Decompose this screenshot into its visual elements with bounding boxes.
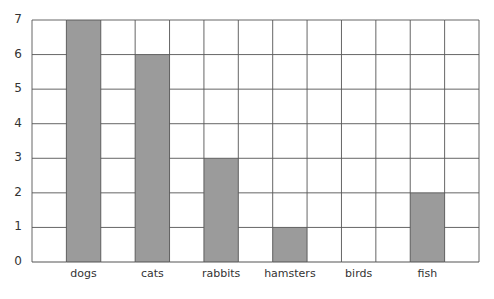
y-tick-label: 5 (8, 81, 22, 95)
y-tick-label: 3 (8, 150, 22, 164)
bar-hamsters (273, 227, 307, 262)
x-category-label: cats (117, 267, 187, 280)
x-category-label: fish (392, 267, 462, 280)
y-tick-label: 7 (8, 12, 22, 26)
y-tick-label: 4 (8, 116, 22, 130)
y-tick-label: 0 (8, 254, 22, 268)
x-category-label: birds (324, 267, 394, 280)
bar-rabbits (204, 158, 238, 262)
x-category-label: rabbits (186, 267, 256, 280)
y-tick-label: 1 (8, 219, 22, 233)
x-category-label: dogs (49, 267, 119, 280)
bar-cats (135, 55, 169, 262)
y-tick-label: 2 (8, 185, 22, 199)
bar-dogs (66, 20, 100, 262)
bar-chart: 01234567dogscatsrabbitshamstersbirdsfish (0, 0, 494, 299)
x-category-label: hamsters (255, 267, 325, 280)
y-tick-label: 6 (8, 47, 22, 61)
chart-plot-area (0, 0, 494, 299)
bar-fish (410, 193, 444, 262)
